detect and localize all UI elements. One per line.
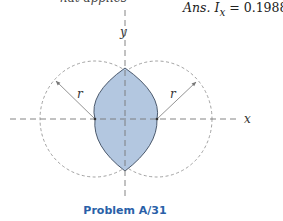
right-radius-arrow	[157, 82, 196, 119]
x-axis-label: x	[244, 112, 251, 126]
y-axis-label: y	[119, 25, 127, 39]
left-radius-label: r	[77, 87, 84, 101]
right-center-point	[156, 118, 159, 121]
figure-caption: Problem A/31	[0, 204, 250, 217]
left-center-point	[94, 118, 97, 121]
lens-area	[94, 68, 158, 171]
figure-diagram: y x r r	[0, 0, 283, 221]
left-radius-arrow	[56, 81, 95, 119]
right-radius-label: r	[170, 87, 177, 101]
